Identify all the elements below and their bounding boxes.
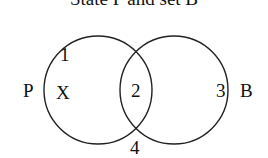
diagram-title-clipped: State P and set B <box>70 0 198 9</box>
element-x-label: X <box>56 82 70 103</box>
region-2-label: 2 <box>131 80 141 101</box>
venn-diagram: State P and set B P 1 X 2 3 B 4 <box>0 0 268 158</box>
region-4-label: 4 <box>130 137 140 158</box>
region-3-label: 3 <box>216 80 226 101</box>
set-label-p: P <box>23 80 34 101</box>
region-1-label: 1 <box>60 44 70 65</box>
set-label-b: B <box>240 80 253 101</box>
